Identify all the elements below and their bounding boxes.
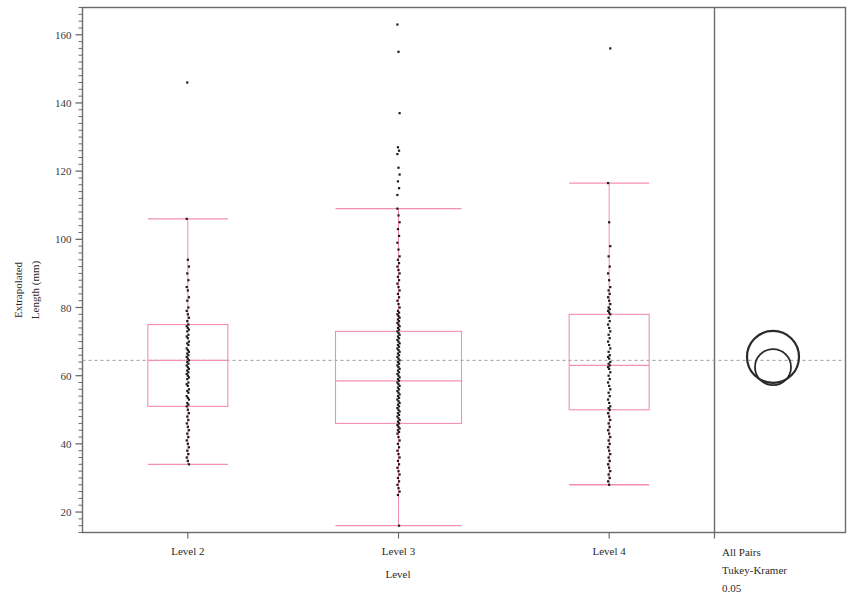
data-point (609, 436, 611, 438)
data-point (186, 300, 188, 302)
data-point (186, 378, 188, 380)
circle-inner[interactable] (755, 349, 791, 385)
data-point (186, 405, 188, 407)
data-point (608, 255, 610, 257)
data-point (398, 279, 400, 281)
data-point (608, 300, 610, 302)
data-point (397, 167, 399, 169)
data-point (396, 242, 398, 244)
data-point (397, 214, 399, 216)
data-point (396, 484, 398, 486)
data-point (607, 398, 609, 400)
data-point (186, 310, 188, 312)
data-point (607, 323, 609, 325)
x-axis-title: Level (385, 568, 410, 580)
comparison-label-all-pairs: All Pairs (722, 546, 761, 558)
data-point (188, 296, 190, 298)
data-point (397, 293, 399, 295)
data-point (399, 173, 401, 175)
data-point (608, 334, 610, 336)
data-point (188, 412, 190, 414)
data-point (607, 381, 609, 383)
y-axis-title-line2: Length (mm) (29, 260, 42, 319)
data-point (609, 388, 611, 390)
tukey-kramer-circles (747, 331, 799, 385)
data-point (609, 443, 611, 445)
data-point (188, 463, 190, 465)
data-point (608, 344, 610, 346)
data-point (187, 460, 189, 462)
data-point (186, 433, 188, 435)
data-point (396, 23, 398, 25)
data-point (399, 221, 401, 223)
data-point (396, 300, 398, 302)
data-point (609, 477, 611, 479)
data-point (609, 286, 611, 288)
data-point (398, 235, 400, 237)
data-point (609, 337, 611, 339)
data-point (397, 276, 399, 278)
data-point (186, 320, 188, 322)
data-point (608, 317, 610, 319)
data-point (399, 439, 401, 441)
data-point (399, 456, 401, 458)
data-point (609, 265, 611, 267)
data-point (399, 272, 401, 274)
data-point (608, 422, 610, 424)
data-point (608, 327, 610, 329)
circle-outer[interactable] (747, 331, 799, 383)
data-point (187, 289, 189, 291)
y-axis-title-line1: Extrapolated (12, 261, 24, 318)
data-point (608, 467, 610, 469)
data-point (607, 182, 609, 184)
data-point (609, 460, 611, 462)
data-point (397, 286, 399, 288)
data-point (186, 286, 188, 288)
data-point (608, 385, 610, 387)
chart-canvas: 20406080100120140160 Level 2Level 3Level… (0, 0, 866, 596)
data-point (398, 150, 400, 152)
data-point (609, 453, 611, 455)
comparison-label-method: Tukey-Kramer (722, 564, 787, 576)
data-point (397, 248, 399, 250)
data-point (607, 412, 609, 414)
category-label-level-2: Level 2 (171, 545, 204, 557)
data-point (609, 293, 611, 295)
data-point (399, 306, 401, 308)
data-point (608, 279, 610, 281)
y-axis-tick-label: 40 (61, 438, 73, 450)
data-point (397, 180, 399, 182)
data-point (187, 436, 189, 438)
data-point (608, 358, 610, 360)
data-point (399, 490, 401, 492)
data-point (399, 112, 401, 114)
data-point (397, 494, 399, 496)
data-point (398, 262, 400, 264)
data-point (607, 480, 609, 482)
data-point (607, 446, 609, 448)
data-point (186, 456, 188, 458)
data-point (609, 47, 611, 49)
data-point (607, 272, 609, 274)
y-axis-tick-label: 160 (55, 29, 72, 41)
data-point (186, 330, 188, 332)
category-labels: Level 2Level 3Level 4 (171, 545, 626, 557)
data-point (609, 320, 611, 322)
plot-frame (83, 8, 846, 533)
data-point (187, 259, 189, 261)
data-point (609, 313, 611, 315)
data-point (398, 296, 400, 298)
data-point (188, 265, 190, 267)
data-point (186, 81, 188, 83)
data-point (187, 385, 189, 387)
data-point (608, 368, 610, 370)
y-axis-tick-label: 20 (61, 506, 73, 518)
data-point (609, 303, 611, 305)
data-point (608, 375, 610, 377)
data-point (396, 208, 398, 210)
data-point (186, 272, 188, 274)
data-point (397, 487, 399, 489)
data-point (609, 378, 611, 380)
data-point (397, 51, 399, 53)
data-point (609, 426, 611, 428)
